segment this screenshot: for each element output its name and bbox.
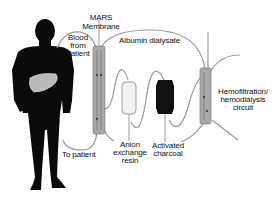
mars-label-line1: MARS bbox=[82, 14, 120, 22]
activated-charcoal-label: Activated charcoal bbox=[148, 142, 188, 158]
mars-label: MARS Membrane bbox=[82, 14, 120, 31]
albumin-dialysate-label: Albumin dialysate bbox=[119, 37, 180, 45]
anion-label-line3: resin bbox=[112, 157, 148, 165]
mars-diagram: MARS Membrane Blood from patient Albumin… bbox=[0, 0, 275, 203]
to-patient-label: To patient bbox=[62, 151, 96, 159]
hemofiltration-circuit-label: Hemofiltration/ hemodialysis circuit bbox=[212, 88, 274, 112]
charcoal-label-line2: charcoal bbox=[148, 150, 188, 158]
hemo-label-line3: circuit bbox=[212, 104, 274, 112]
mars-label-line2: Membrane bbox=[82, 23, 120, 31]
anion-exchange-resin-label: Anion exchange resin bbox=[112, 141, 148, 165]
blood-label-line3: patient bbox=[60, 50, 96, 58]
blood-from-patient-label: Blood from patient bbox=[60, 34, 96, 58]
hemodialysis-filter bbox=[200, 68, 211, 124]
